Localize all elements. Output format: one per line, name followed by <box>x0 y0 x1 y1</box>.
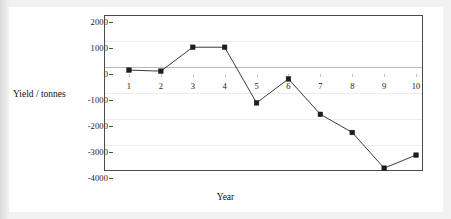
x-tick-label: 1 <box>127 82 131 91</box>
gridline <box>105 93 422 94</box>
x-tick-mark <box>225 74 226 77</box>
y-tick-mark <box>109 178 113 179</box>
x-tick-label: 6 <box>286 82 290 91</box>
x-tick-mark <box>416 74 417 77</box>
y-axis-title: Yield / tonnes <box>13 89 66 100</box>
y-tick-label: -3000 <box>64 148 108 157</box>
figure-root: Yield / tonnes 200010000-1000-2000-3000-… <box>0 0 451 219</box>
zero-line <box>105 67 422 68</box>
x-tick-mark <box>320 74 321 77</box>
x-axis-title: Year <box>0 192 451 203</box>
y-tick-label: -4000 <box>64 174 108 183</box>
y-tick-label: 0 <box>64 70 108 79</box>
y-tick-label: 2000 <box>64 18 108 27</box>
x-tick-mark <box>352 74 353 77</box>
x-tick-label: 5 <box>254 82 258 91</box>
x-tick-mark <box>161 74 162 77</box>
y-tick-label: 1000 <box>64 44 108 53</box>
y-tick-label: -2000 <box>64 122 108 131</box>
plot-area <box>104 15 423 171</box>
x-tick-mark <box>257 74 258 77</box>
x-tick-mark <box>288 74 289 77</box>
x-tick-label: 2 <box>159 82 163 91</box>
x-tick-label: 9 <box>382 82 386 91</box>
x-tick-mark <box>193 74 194 77</box>
x-tick-label: 10 <box>412 82 421 91</box>
gridline <box>105 145 422 146</box>
x-tick-label: 3 <box>191 82 195 91</box>
x-tick-label: 4 <box>223 82 227 91</box>
y-tick-label: -1000 <box>64 96 108 105</box>
x-tick-mark <box>129 74 130 77</box>
x-tick-label: 8 <box>350 82 354 91</box>
gridline <box>105 119 422 120</box>
x-tick-mark <box>384 74 385 77</box>
x-tick-label: 7 <box>318 82 322 91</box>
gridline <box>105 41 422 42</box>
